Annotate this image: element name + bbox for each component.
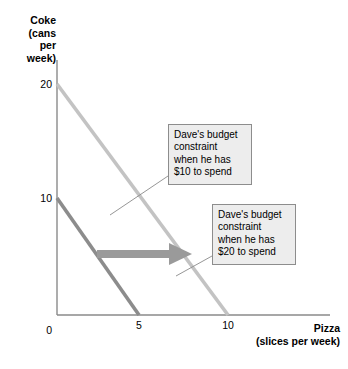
y-tick-10: 10 [26, 192, 52, 204]
y-tick-20: 20 [26, 78, 52, 90]
x-tick-10: 10 [215, 319, 241, 331]
origin-tick: 0 [26, 324, 52, 336]
budget-constraint-chart: Coke (cans per week) Pizza (slices per w… [0, 0, 348, 369]
x-axis-label: Pizza [248, 322, 340, 335]
y-axis-label: Coke (cans per week) [8, 14, 56, 64]
budget-line-20 [57, 84, 228, 315]
callout-budget-10: Dave's budget constraint when he has $10… [168, 124, 252, 185]
callout-budget-20: Dave's budget constraint when he has $20… [212, 204, 296, 265]
leader-line-10 [110, 176, 168, 215]
x-tick-5: 5 [126, 319, 152, 331]
x-axis-sublabel: (slices per week) [236, 335, 340, 348]
